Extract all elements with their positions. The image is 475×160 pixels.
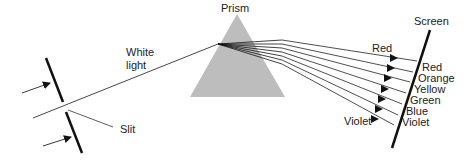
ray-top-label: Red bbox=[372, 42, 392, 54]
white-light-label-1: White bbox=[126, 46, 154, 58]
ray-bottom-label: Violet bbox=[344, 115, 371, 127]
screen-label: Screen bbox=[414, 15, 449, 27]
prism-dispersion-diagram: Prism Screen White light Slit Red Violet… bbox=[0, 0, 475, 160]
slit-leader-line bbox=[68, 110, 113, 127]
dispersed-rays bbox=[282, 40, 417, 125]
white-light-label-2: light bbox=[126, 59, 146, 71]
prism bbox=[190, 14, 285, 97]
incoming-light-arrows bbox=[22, 83, 71, 146]
prism-label: Prism bbox=[221, 2, 249, 14]
slit-label: Slit bbox=[120, 123, 135, 135]
spectrum-label-violet: Violet bbox=[402, 116, 429, 128]
